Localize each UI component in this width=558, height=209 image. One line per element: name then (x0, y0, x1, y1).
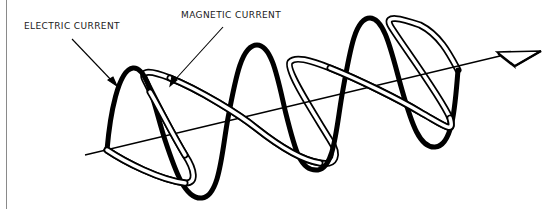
em-wave-illustration (0, 0, 558, 209)
electric-current-label: ELECTRIC CURRENT (24, 21, 120, 31)
magnetic-current-label: MAGNETIC CURRENT (181, 10, 281, 20)
magnetic-leader-line (173, 27, 223, 82)
diagram-canvas: ELECTRIC CURRENT MAGNETIC CURRENT (0, 0, 558, 209)
electric-leader-line (72, 39, 114, 83)
